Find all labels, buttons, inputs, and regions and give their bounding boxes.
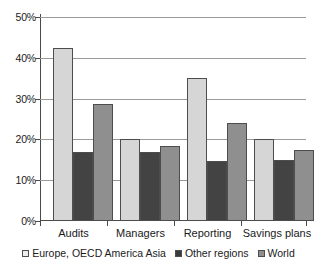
legend-item-other-regions: Other regions bbox=[175, 247, 249, 259]
plot-area bbox=[40, 17, 306, 221]
legend-item-europe-oecd-america-asia: Europe, OECD America Asia bbox=[22, 247, 166, 259]
x-tick-0 bbox=[40, 221, 41, 226]
bar-savings-plans-world bbox=[294, 150, 314, 221]
y-tick-label-20: 20% bbox=[2, 134, 36, 144]
y-tick-label-30: 30% bbox=[2, 94, 36, 104]
bar-reporting-other-regions bbox=[207, 161, 227, 221]
legend-label-world: World bbox=[268, 247, 295, 259]
x-label-managers: Managers bbox=[107, 227, 174, 240]
chart-legend: Europe, OECD America Asia Other regions … bbox=[0, 247, 317, 259]
x-label-audits: Audits bbox=[40, 227, 107, 240]
legend-item-world: World bbox=[258, 247, 295, 259]
x-label-reporting: Reporting bbox=[174, 227, 241, 240]
y-tick-label-50: 50% bbox=[2, 12, 36, 22]
gridline-40 bbox=[40, 58, 306, 59]
bar-reporting-europe-oecd-america-asia bbox=[187, 78, 207, 221]
gridline-50 bbox=[40, 17, 306, 18]
x-tick-2 bbox=[174, 221, 175, 226]
light-gray-square-icon bbox=[22, 250, 29, 257]
gridline-30 bbox=[40, 99, 306, 100]
x-tick-4 bbox=[306, 221, 307, 226]
dark-gray-square-icon bbox=[175, 250, 182, 257]
bar-chart: 50% 40% 30% 20% 10% 0% bbox=[0, 0, 317, 272]
bar-managers-europe-oecd-america-asia bbox=[120, 139, 140, 221]
y-tick-label-10: 10% bbox=[2, 175, 36, 185]
legend-label-europe-oecd-america-asia: Europe, OECD America Asia bbox=[32, 247, 166, 259]
bar-managers-other-regions bbox=[140, 152, 160, 221]
y-tick-label-40: 40% bbox=[2, 53, 36, 63]
x-label-savings-plans: Savings plans bbox=[241, 227, 313, 240]
bar-savings-plans-other-regions bbox=[274, 160, 294, 221]
bar-savings-plans-europe-oecd-america-asia bbox=[254, 139, 274, 221]
bar-managers-world bbox=[160, 146, 180, 221]
medium-gray-square-icon bbox=[258, 250, 265, 257]
bar-audits-europe-oecd-america-asia bbox=[53, 48, 73, 221]
x-tick-3 bbox=[241, 221, 242, 226]
bar-audits-other-regions bbox=[73, 152, 93, 221]
x-tick-1 bbox=[107, 221, 108, 226]
y-tick-label-0: 0% bbox=[2, 216, 36, 226]
legend-label-other-regions: Other regions bbox=[185, 247, 249, 259]
bar-audits-world bbox=[93, 104, 113, 221]
bar-reporting-world bbox=[227, 123, 247, 221]
